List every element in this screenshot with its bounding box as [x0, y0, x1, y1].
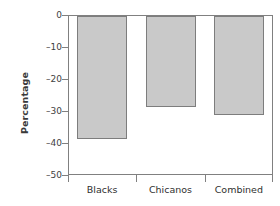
y-tick-label: –40: [26, 138, 62, 148]
x-tick-mark: [272, 175, 273, 182]
y-tick-label: –10: [26, 42, 62, 52]
y-tick-label: –50: [26, 170, 62, 180]
x-tick-mark: [205, 175, 206, 182]
bar-chart-figure: Percentage 0–10–20–30–40–50 BlacksChican…: [0, 0, 280, 206]
bar-combined: [214, 16, 264, 115]
x-tick-label: Combined: [199, 184, 279, 195]
y-tick-label: –20: [26, 74, 62, 84]
bar-blacks: [77, 16, 127, 139]
bar-chicanos: [146, 16, 196, 107]
y-tick-label: 0: [26, 10, 62, 20]
x-tick-mark: [136, 175, 137, 182]
y-tick-label: –30: [26, 106, 62, 116]
plot-area: [68, 15, 273, 175]
x-tick-mark: [68, 175, 69, 182]
